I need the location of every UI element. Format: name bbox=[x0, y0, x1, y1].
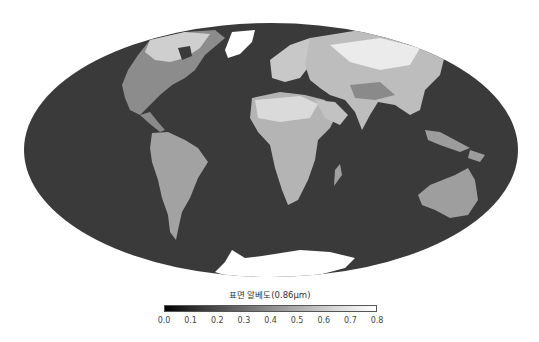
colorbar bbox=[164, 305, 377, 312]
new-zealand bbox=[484, 218, 494, 236]
tick-label: 0.3 bbox=[238, 316, 251, 325]
tick-label: 0.2 bbox=[211, 316, 224, 325]
colorbar-title: 표면 알베도(0.86μm) bbox=[0, 288, 539, 300]
tick-label: 0.8 bbox=[371, 316, 384, 325]
world-albedo-map bbox=[0, 0, 539, 290]
tick-label: 0.7 bbox=[344, 316, 357, 325]
tick-label: 0.5 bbox=[291, 316, 304, 325]
tick-label: 0.0 bbox=[158, 316, 171, 325]
tick-label: 0.6 bbox=[317, 316, 330, 325]
tick-label: 0.4 bbox=[264, 316, 277, 325]
tick-label: 0.1 bbox=[184, 316, 197, 325]
antarctica bbox=[215, 250, 355, 280]
